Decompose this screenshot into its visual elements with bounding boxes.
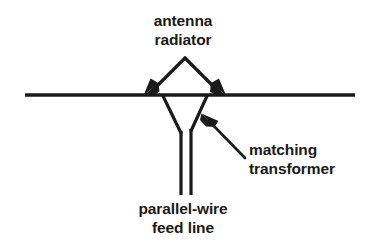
label-antenna-radiator-line2: radiator xyxy=(0,31,366,50)
label-matching-transformer: matching transformer xyxy=(249,141,335,178)
label-antenna-radiator: antenna radiator xyxy=(0,12,366,49)
label-antenna-radiator-line1: antenna xyxy=(154,12,213,29)
matching-transformer-right-taper xyxy=(191,96,207,131)
matching-transformer-left-taper xyxy=(163,96,181,133)
label-feed-line: parallel-wire feed line xyxy=(0,200,366,237)
matching-transformer-arrowhead-icon xyxy=(200,114,219,128)
label-matching-transformer-line2: transformer xyxy=(249,160,335,179)
antenna-diagram-figure: antenna radiator matching transformer pa… xyxy=(0,0,366,249)
label-feed-line-line2: feed line xyxy=(0,219,366,238)
label-feed-line-line1: parallel-wire xyxy=(138,200,227,217)
label-matching-transformer-line1: matching xyxy=(249,141,317,158)
